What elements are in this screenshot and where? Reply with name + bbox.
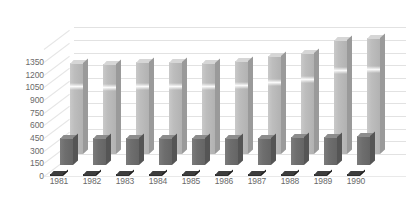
x-axis-tick-label: 1985: [176, 176, 206, 186]
bar-side: [73, 133, 78, 165]
bar-face: [159, 138, 172, 165]
x-axis-tick-label: 1984: [143, 176, 173, 186]
bar-face: [357, 136, 370, 165]
y-axis-tick-label: 900: [4, 96, 44, 104]
y-axis-tick-label: 600: [4, 121, 44, 129]
bar: [159, 138, 172, 165]
y-axis-tick-label: 1350: [4, 58, 44, 66]
bar-side: [106, 133, 111, 165]
y-axis-tick-label: 300: [4, 147, 44, 155]
depth-gridline: [44, 30, 70, 50]
bar-side: [380, 34, 385, 154]
bar-side: [172, 133, 177, 165]
gridline: [74, 40, 406, 41]
bar-face: [60, 138, 73, 165]
bar-face: [324, 137, 337, 165]
bar-side: [182, 58, 187, 154]
bar: [357, 136, 370, 165]
bar-side: [139, 134, 144, 165]
bar-side: [149, 58, 154, 154]
bar: [258, 138, 271, 165]
x-axis-tick-label: 1982: [77, 176, 107, 186]
x-axis-tick-label: 1983: [110, 176, 140, 186]
bar-side: [215, 58, 220, 154]
y-axis-tick-label: 1200: [4, 71, 44, 79]
bar: [60, 138, 73, 165]
y-axis-tick-label: 0: [4, 172, 44, 180]
bar-side: [238, 133, 243, 165]
bar-side: [281, 52, 286, 154]
bar: [192, 138, 205, 165]
bar-side: [116, 60, 121, 154]
x-axis-tick-label: 1989: [308, 176, 338, 186]
bar: [225, 138, 238, 165]
bar-side: [205, 134, 210, 165]
bar: [291, 137, 304, 165]
bar-side: [370, 131, 375, 165]
bar-side: [304, 133, 309, 165]
y-axis-tick-label: 750: [4, 109, 44, 117]
bar-side: [314, 48, 319, 154]
x-axis-tick-label: 1986: [209, 176, 239, 186]
bar-side: [347, 36, 352, 154]
bar-side: [83, 58, 88, 154]
x-axis-tick-label: 1990: [341, 176, 371, 186]
bar: [93, 138, 106, 165]
bar-face: [291, 137, 304, 165]
bar: [126, 138, 139, 165]
y-axis-tick-label: 450: [4, 134, 44, 142]
x-axis-tick-label: 1987: [242, 176, 272, 186]
bar-side: [248, 57, 253, 154]
bar-face: [258, 138, 271, 165]
bar-face: [225, 138, 238, 165]
bar-face: [126, 138, 139, 165]
x-axis-tick-label: 1988: [275, 176, 305, 186]
x-axis: 1981198219831984198519861987198819891990: [44, 176, 406, 196]
gridline: [74, 53, 406, 54]
bar-side: [337, 132, 342, 165]
y-axis: 0150300450600750900105012001350: [0, 0, 44, 204]
bar-chart: 0150300450600750900105012001350 19811982…: [0, 0, 406, 204]
bar: [324, 137, 337, 165]
bar-side: [271, 133, 276, 165]
bar-face: [192, 138, 205, 165]
wall-top-edge: [74, 27, 406, 28]
x-axis-tick-label: 1981: [44, 176, 74, 186]
bar-face: [93, 138, 106, 165]
y-axis-tick-label: 150: [4, 159, 44, 167]
plot-area: [44, 0, 406, 204]
y-axis-tick-label: 1050: [4, 83, 44, 91]
